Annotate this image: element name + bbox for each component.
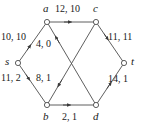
edge-c-t-arrow [104,34,108,39]
node-t[interactable] [121,60,126,65]
node-b[interactable] [44,102,49,107]
flow-network-figure: s a c t b d 10, 10 11, 2 12, 10 4, 0 8, … [0,0,142,126]
edge-s-a-arrow [27,46,30,50]
node-c[interactable] [93,19,98,24]
graph-canvas [0,0,142,126]
edge-d-t-arrow [107,83,111,88]
node-a[interactable] [44,19,49,24]
edge-s-b [18,63,47,105]
edge-c-b-arrow [59,80,63,86]
edge-s-a [18,22,47,63]
edge-lines-group [18,22,124,105]
node-s[interactable] [15,60,20,65]
edge-s-b-arrow [26,75,29,79]
edge-d-a-arrow [56,37,60,43]
node-d[interactable] [93,102,98,107]
edge-c-t [96,22,124,63]
